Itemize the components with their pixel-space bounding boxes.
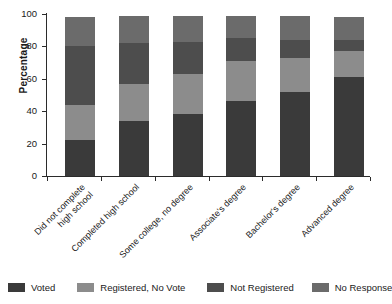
bar-segment [280, 92, 310, 176]
bar-segment [226, 38, 256, 61]
bar-segment [280, 58, 310, 92]
bar-segment [173, 74, 203, 114]
legend-label: Not Registered [230, 282, 293, 293]
y-tick-label: 100 [7, 9, 37, 19]
legend-label: No Response [335, 282, 392, 293]
legend-item[interactable]: Registered, No Vote [77, 282, 185, 293]
bar-segment [119, 84, 149, 121]
bar-segment [334, 17, 364, 40]
chart-legend: VotedRegistered, No VoteNot RegisteredNo… [8, 282, 380, 293]
bar-segment [173, 16, 203, 42]
y-tick-label: 80 [7, 41, 37, 51]
y-axis-title: Percentage [18, 11, 29, 121]
bar-segment [65, 140, 95, 176]
x-axis-labels: Did not complete high schoolCompleted hi… [0, 176, 384, 271]
bar-segment [119, 121, 149, 176]
bar-segment [280, 16, 310, 40]
legend-swatch [312, 283, 329, 292]
y-tick-label: 60 [7, 74, 37, 84]
bar-stack [280, 16, 310, 176]
legend-swatch [8, 283, 25, 292]
bar-stack [173, 16, 203, 176]
legend-item[interactable]: No Response [312, 282, 392, 293]
bar-segment [65, 17, 95, 46]
legend-label: Voted [31, 282, 55, 293]
legend-item[interactable]: Voted [8, 282, 55, 293]
legend-label: Registered, No Vote [100, 282, 185, 293]
bar-stack [226, 16, 256, 176]
bar-segment [334, 51, 364, 77]
bar-segment [226, 16, 256, 39]
bar-segment [334, 40, 364, 51]
bar-stack [119, 16, 149, 176]
bar-segment [173, 114, 203, 176]
bar-stack [65, 17, 95, 176]
bar-segment [119, 43, 149, 83]
legend-swatch [207, 283, 224, 292]
bar-segment [280, 40, 310, 58]
legend-item[interactable]: Not Registered [207, 282, 293, 293]
bar-segment [226, 61, 256, 101]
bar-segment [334, 77, 364, 176]
y-tick-label: 40 [7, 106, 37, 116]
bar-segment [65, 46, 95, 104]
plot-area [47, 14, 370, 176]
bar-segment [119, 16, 149, 44]
bar-segment [173, 42, 203, 74]
bar-stack [334, 17, 364, 176]
legend-swatch [77, 283, 94, 292]
bar-segment [65, 105, 95, 141]
bar-segment [226, 101, 256, 176]
y-tick-label: 20 [7, 139, 37, 149]
